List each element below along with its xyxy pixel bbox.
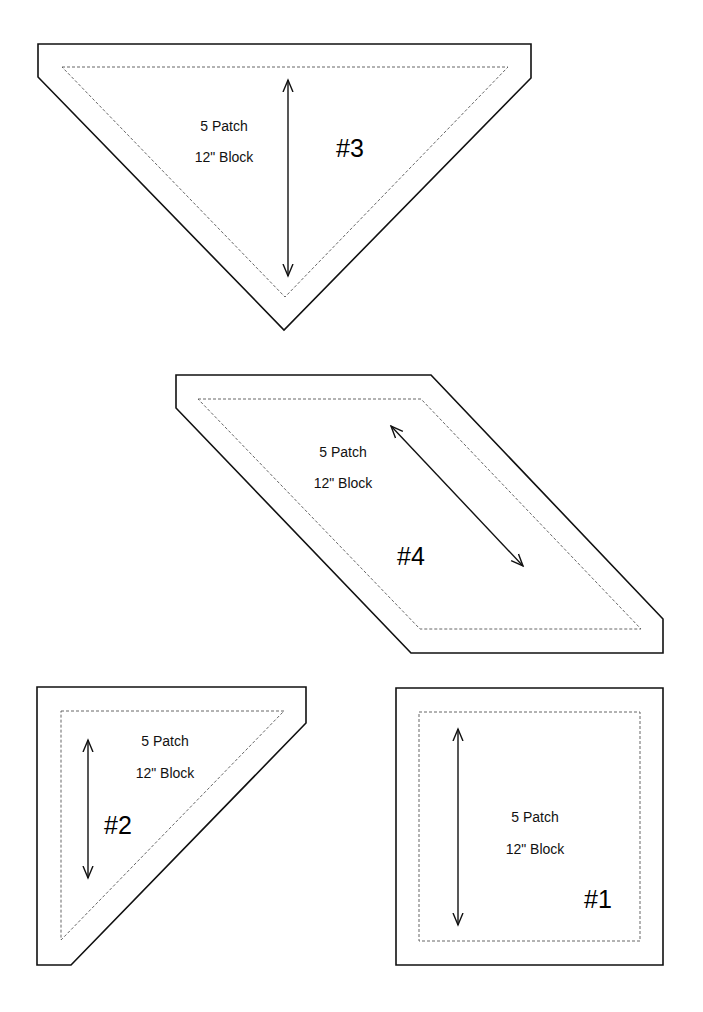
cut-line — [396, 688, 663, 965]
piece-label-pattern: 5 Patch — [511, 809, 558, 825]
piece-number: #1 — [584, 885, 612, 913]
quilt-template-sheet: 5 Patch 12" Block #3 5 Patch 12" Block #… — [0, 0, 703, 1012]
cut-line — [37, 687, 306, 965]
piece-3: 5 Patch 12" Block #3 — [38, 44, 531, 330]
piece-number: #2 — [104, 811, 132, 839]
piece-4: 5 Patch 12" Block #4 — [176, 375, 663, 653]
piece-label-size: 12" Block — [506, 841, 566, 857]
piece-label-size: 12" Block — [195, 149, 255, 165]
piece-label-size: 12" Block — [314, 475, 374, 491]
piece-number: #4 — [397, 542, 425, 570]
piece-label-pattern: 5 Patch — [141, 733, 188, 749]
piece-label-pattern: 5 Patch — [200, 118, 247, 134]
piece-label-size: 12" Block — [136, 765, 196, 781]
cut-line — [176, 375, 663, 653]
cut-line — [38, 44, 531, 330]
piece-1: 5 Patch 12" Block #1 — [396, 688, 663, 965]
piece-2: 5 Patch 12" Block #2 — [37, 687, 306, 965]
piece-number: #3 — [336, 134, 364, 162]
piece-label-pattern: 5 Patch — [319, 444, 366, 460]
